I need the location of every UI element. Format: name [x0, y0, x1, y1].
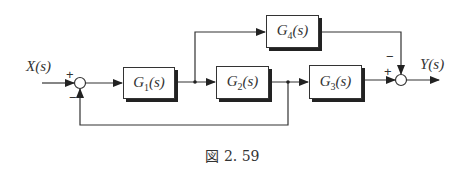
summing-junction-2 — [396, 75, 407, 86]
block-g1: G1(s) — [123, 67, 175, 99]
block-g2: G2(s) — [216, 66, 269, 99]
branch-point-1 — [193, 80, 197, 84]
figure-caption: 図 2. 59 — [0, 145, 465, 165]
block-g4: G4(s) — [266, 15, 319, 48]
block-g2-label: G2(s) — [227, 73, 259, 92]
s1-minus-sign: − — [69, 91, 77, 104]
block-g1-label: G1(s) — [133, 74, 165, 93]
s1-plus-sign: + — [66, 68, 74, 81]
branch-point-2 — [286, 80, 290, 84]
block-g3-label: G3(s) — [320, 73, 352, 92]
input-label: X(s) — [26, 58, 51, 75]
block-g4-label: G4(s) — [277, 22, 309, 41]
output-label: Y(s) — [420, 56, 444, 73]
summing-junction-1 — [75, 78, 86, 89]
block-g3: G3(s) — [309, 65, 362, 99]
s2-minus-sign: − — [386, 50, 394, 63]
s2-plus-sign: + — [384, 65, 392, 78]
